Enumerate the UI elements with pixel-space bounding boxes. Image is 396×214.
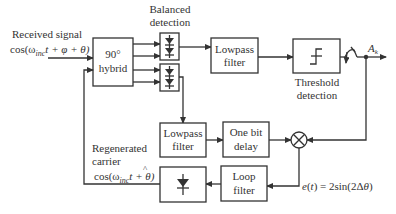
- svg-text:Lowpass: Lowpass: [215, 43, 254, 55]
- svg-text:delay: delay: [234, 140, 258, 152]
- svg-text:Regenerated: Regenerated: [92, 142, 147, 154]
- one-bit-delay-block: One bit delay: [223, 122, 269, 157]
- svg-text:Received signal: Received signal: [12, 28, 82, 40]
- svg-text:filter: filter: [233, 184, 255, 196]
- received-signal-label: Received signal cos(ωinct + φ + θ): [10, 28, 90, 58]
- hybrid-output-arrows: [133, 44, 160, 82]
- sampler-switch: [340, 47, 386, 63]
- svg-text:filter: filter: [172, 140, 194, 152]
- svg-text:Balanced: Balanced: [150, 3, 191, 15]
- balanced-detection-label: Balanced detection: [150, 3, 191, 28]
- output-label: Ak: [367, 42, 379, 56]
- photodiode-pair-bottom: [160, 64, 179, 91]
- loop-filter-block: Loop filter: [221, 166, 267, 201]
- threshold-detection-label: Threshold detection: [295, 76, 340, 101]
- error-signal-label: e(t) = 2sin(2Δθ): [302, 180, 373, 193]
- vco-block: [160, 167, 206, 202]
- svg-text:detection: detection: [297, 89, 338, 101]
- svg-text:One bit: One bit: [230, 126, 263, 138]
- lowpass-filter-top: Lowpass filter: [211, 38, 258, 73]
- svg-text:Lowpass: Lowpass: [163, 127, 202, 139]
- hybrid-block: 90° hybrid: [93, 38, 133, 86]
- svg-text:Threshold: Threshold: [295, 76, 340, 88]
- error-signal-line: [267, 148, 299, 186]
- svg-text:Loop: Loop: [232, 170, 256, 182]
- svg-text:hybrid: hybrid: [99, 62, 128, 74]
- svg-text:filter: filter: [224, 56, 246, 68]
- svg-text:carrier: carrier: [92, 155, 121, 167]
- photodiode-pair-top: [160, 33, 179, 60]
- lowpass-filter-bottom: Lowpass filter: [160, 123, 206, 157]
- coherent-receiver-diagram: Received signal cos(ωinct + φ + θ) 90° h…: [0, 0, 396, 214]
- svg-text:detection: detection: [150, 16, 191, 28]
- multiplier-icon: [291, 132, 307, 148]
- svg-text:90°: 90°: [105, 48, 120, 60]
- regenerated-carrier-label: Regenerated carrier cos(ωinct + θ) ^: [92, 142, 155, 185]
- svg-text:cos(ωinct + φ + θ): cos(ωinct + φ + θ): [10, 43, 90, 58]
- threshold-detection-block: [293, 39, 340, 73]
